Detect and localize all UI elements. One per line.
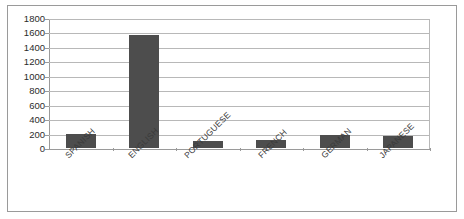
x-axis-tick-mark	[430, 148, 431, 151]
y-axis-tick-label: 0	[11, 144, 45, 154]
y-axis-tick-label: 1000	[11, 72, 45, 82]
y-axis-tick-labels: 020040060080010001200140016001800	[8, 19, 45, 150]
x-axis-tick-labels: SPANISHENGLISHPORTUGUESEFRENCHGERMANJAPA…	[49, 150, 430, 200]
x-label-slot: SPANISH	[49, 150, 113, 200]
y-axis-tick-label: 1600	[11, 28, 45, 38]
y-axis-tick-label: 200	[11, 130, 45, 140]
x-label-slot: ENGLISH	[113, 150, 177, 200]
y-axis-tick-label: 1200	[11, 57, 45, 67]
bar-slot	[367, 18, 431, 148]
x-label-slot: GERMAN	[303, 150, 367, 200]
y-axis-tick-label: 600	[11, 101, 45, 111]
y-axis-tick-label: 800	[11, 86, 45, 96]
y-axis-tick-label: 1800	[11, 14, 45, 24]
x-label-slot: JAPANESE	[367, 150, 431, 200]
bar-slot	[303, 18, 367, 148]
y-axis-tick-label: 1400	[11, 43, 45, 53]
bar-slot	[240, 18, 304, 148]
y-axis-tick-label: 400	[11, 115, 45, 125]
x-label-slot: FRENCH	[240, 150, 304, 200]
bar-slot	[113, 18, 177, 148]
x-label-slot: PORTUGUESE	[176, 150, 240, 200]
chart-frame: 020040060080010001200140016001800 SPANIS…	[7, 5, 457, 212]
bar-slot	[49, 18, 113, 148]
plot-area	[49, 19, 430, 149]
